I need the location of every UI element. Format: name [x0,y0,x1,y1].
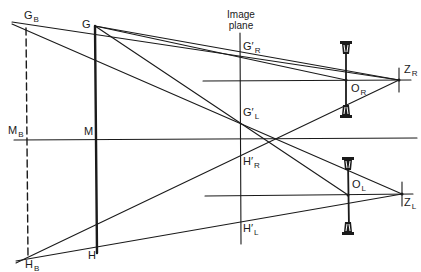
label-hpl: H′L [243,223,258,237]
optical-axis-left [205,194,413,196]
label-gpr: G′R [243,41,260,55]
ray-hb-to-zl [16,194,402,261]
label-g: G [82,19,91,30]
ray-gb-to-zr [12,22,399,80]
image-plane-line [240,33,241,244]
label-zl: ZL [404,197,416,211]
midline-m [14,138,417,140]
label-or: OR [351,83,366,97]
label-h: H [88,250,96,261]
label-ol: OL [352,179,366,193]
image-plane-title-line1: Image [222,9,260,20]
label-hpr: H′R [243,156,260,170]
label-mb: MB [8,125,24,139]
stereo-geometry-diagram [0,0,421,272]
label-gpl: G′L [243,107,259,121]
center-or [345,79,348,82]
image-plane-title-line2: plane [222,20,260,31]
label-hb: HB [25,259,39,272]
label-m: M [84,126,93,137]
object-gb-hb-dashed [26,28,28,257]
point-zr [398,79,401,82]
ray-g-to-zl [95,26,348,195]
ray-g-to-or [95,26,346,80]
center-ol [347,194,350,197]
label-zr: ZR [404,64,418,78]
optical-axis-right [203,80,411,81]
image-plane-title: Image plane [222,9,260,31]
ray-hb-to-zr [16,80,399,263]
label-gb: GB [24,10,39,24]
